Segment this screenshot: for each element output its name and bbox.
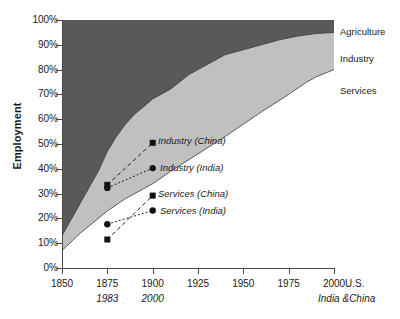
y-tick-label-80: 80%: [18, 64, 58, 75]
marker-services-india-2000: [150, 207, 156, 213]
y-tick-label-10: 10%: [18, 237, 58, 248]
marker-services-china-2000: [150, 193, 156, 199]
x-tick-1900: [153, 269, 154, 274]
y-tick-label-20: 20%: [18, 212, 58, 223]
band-label-industry: Industry: [340, 53, 374, 64]
x-tick-label-1950: 1950: [219, 278, 267, 289]
band-label-services: Services: [340, 85, 376, 96]
y-tick-label-0: 0%: [18, 262, 58, 273]
x-tick-1950: [243, 269, 244, 274]
x-axis-caption-india-china: India &China: [318, 293, 375, 304]
x-tick-label-1900: 1900: [129, 278, 177, 289]
x-secondary-label-1983: 1983: [83, 293, 131, 304]
y-tick-label-90: 90%: [18, 39, 58, 50]
x-tick-1925: [198, 269, 199, 274]
x-tick-1850: [62, 269, 63, 274]
x-tick-label-1850: 1850: [38, 278, 86, 289]
series-label-industry-india: Industry (India): [160, 162, 223, 173]
marker-services-china-1983: [104, 237, 110, 243]
y-tick-label-60: 60%: [18, 113, 58, 124]
y-tick-label-70: 70%: [18, 88, 58, 99]
employment-structural-change-chart: Employment: [0, 0, 400, 319]
x-tick-label-1925: 1925: [174, 278, 222, 289]
x-tick-label-1875: 1875: [83, 278, 131, 289]
marker-services-india-1983: [104, 221, 110, 227]
y-tick-label-30: 30%: [18, 188, 58, 199]
series-label-industry-china: Industry (China): [158, 135, 226, 146]
x-secondary-label-2000: 2000: [129, 293, 177, 304]
series-label-services-india: Services (India): [160, 205, 226, 216]
x-tick-1875: [107, 269, 108, 274]
x-tick-2000: [334, 269, 335, 274]
series-label-services-china: Services (China): [158, 188, 228, 199]
x-tick-label-1975: 1975: [265, 278, 313, 289]
marker-industry-india-1983: [104, 185, 110, 191]
band-label-agriculture: Agriculture: [340, 26, 385, 37]
y-tick-label-40: 40%: [18, 163, 58, 174]
y-tick-label-50: 50%: [18, 138, 58, 149]
x-tick-1975: [289, 269, 290, 274]
y-tick-label-100: 100%: [18, 14, 58, 25]
x-axis-caption-us: U.S.: [345, 278, 364, 289]
y-axis-line: [62, 20, 63, 269]
marker-industry-china-2000: [150, 140, 156, 146]
marker-industry-india-2000: [150, 165, 156, 171]
